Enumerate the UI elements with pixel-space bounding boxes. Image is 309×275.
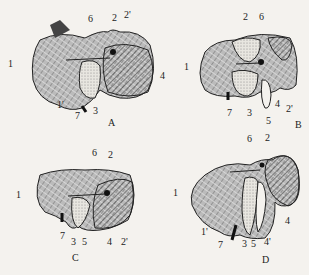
label-a-3: 3 [93, 106, 98, 116]
label-d-6: 6 [247, 134, 252, 144]
label-b-6: 6 [259, 12, 264, 22]
caption-c: C [72, 253, 79, 263]
label-a-6: 6 [88, 14, 93, 24]
label-c-1: 1 [16, 190, 21, 200]
label-c-2prime: 2' [121, 237, 128, 247]
label-a-1: 1 [8, 59, 13, 69]
caption-a: A [108, 118, 115, 128]
label-d-3: 3 [242, 239, 247, 249]
label-d-4prime: 4' [264, 237, 271, 247]
label-a-4: 4 [160, 71, 165, 81]
label-c-4: 4 [107, 237, 112, 247]
label-d-5: 5 [251, 239, 256, 249]
label-b-1: 1 [184, 62, 189, 72]
label-d-1: 1 [173, 188, 178, 198]
label-b-3: 3 [247, 108, 252, 118]
label-d-1prime: 1' [201, 227, 208, 237]
label-b-5: 5 [266, 116, 271, 126]
panel-b-drawing [200, 34, 297, 108]
liver-anatomy-figure: 1 1' 2 2' 3 4 6 7 A 1 2 2' 3 4 5 6 7 B 1… [0, 0, 309, 275]
label-b-2: 2 [243, 12, 248, 22]
label-b-7: 7 [227, 108, 232, 118]
label-a-2prime: 2' [124, 10, 131, 20]
label-d-4: 4 [285, 216, 290, 226]
label-c-6: 6 [92, 148, 97, 158]
caption-b: B [295, 120, 302, 130]
caption-d: D [262, 255, 269, 265]
label-a-1prime: 1' [57, 100, 64, 110]
label-c-7: 7 [60, 231, 65, 241]
label-b-2prime: 2' [286, 104, 293, 114]
label-a-2: 2 [112, 13, 117, 23]
label-a-7: 7 [75, 111, 80, 121]
label-c-2: 2 [108, 150, 113, 160]
label-b-4: 4 [275, 99, 280, 109]
panel-c-drawing [37, 170, 134, 231]
panel-a-drawing [32, 20, 153, 112]
label-d-7: 7 [218, 240, 223, 250]
label-c-3: 3 [71, 237, 76, 247]
figure-drawing [0, 0, 309, 275]
label-d-2: 2 [265, 133, 270, 143]
label-c-5: 5 [82, 237, 87, 247]
